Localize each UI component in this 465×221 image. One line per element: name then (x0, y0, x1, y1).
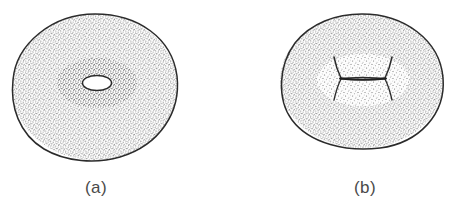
panel-a (8, 10, 186, 168)
panel-b-caption: (b) (331, 178, 399, 198)
torus-a-hole (83, 76, 112, 91)
figure-sheet: (a) (b) (0, 0, 465, 221)
panel-b (274, 10, 450, 156)
panel-a-caption: (a) (62, 178, 130, 198)
